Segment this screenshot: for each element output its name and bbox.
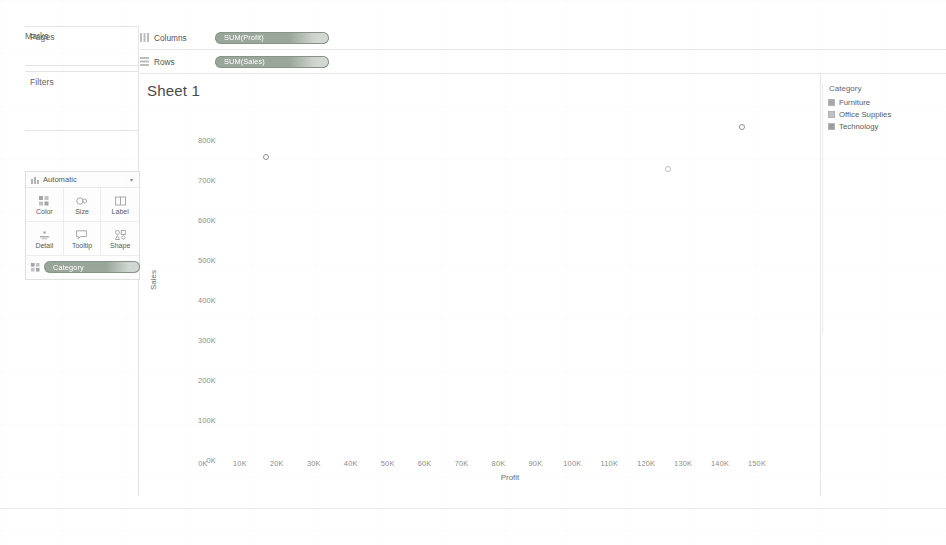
data-point[interactable] [263, 154, 269, 160]
tooltip-icon [76, 229, 87, 240]
columns-shelf-label: Columns [154, 33, 210, 43]
marks-button-size-label: Size [75, 208, 89, 215]
x-axis-tick: 30K [307, 459, 321, 468]
data-point[interactable] [665, 166, 671, 172]
marks-button-shape[interactable]: Shape [101, 222, 139, 255]
legend-divider [822, 84, 823, 334]
left-panel: Pages Filters Marks Automatic ▾ Color [25, 26, 138, 496]
x-axis-tick: 80K [492, 459, 506, 468]
x-axis-tick: 20K [270, 459, 284, 468]
marks-card: Automatic ▾ Color Size Label [25, 171, 140, 280]
label-icon [115, 195, 126, 206]
marks-button-detail-label: Detail [35, 242, 53, 249]
legend-title: Category [828, 84, 936, 93]
x-axis-tick: 150K [748, 459, 766, 468]
x-axis-tick: 90K [529, 459, 543, 468]
columns-shelf[interactable]: Columns SUM(Profit) [140, 26, 946, 50]
marks-button-color[interactable]: Color [26, 188, 64, 222]
marks-encoding-row: Category [26, 255, 139, 279]
scatter-plot[interactable]: Sales Profit 0K100K200K300K400K500K600K7… [140, 74, 820, 496]
x-axis-tick: 140K [711, 459, 729, 468]
bottom-divider [0, 508, 946, 509]
marks-type-icon [31, 176, 39, 184]
marks-button-shape-label: Shape [110, 242, 130, 249]
y-axis-tick: 600K [172, 216, 216, 225]
columns-icon [140, 33, 149, 42]
chevron-down-icon[interactable]: ▾ [130, 176, 135, 183]
color-legend: Category FurnitureOffice SuppliesTechnol… [828, 84, 936, 134]
marks-button-label-label: Label [112, 208, 129, 215]
pages-label: Pages [25, 27, 138, 42]
filters-label: Filters [25, 72, 138, 87]
size-icon [76, 195, 88, 206]
legend-item[interactable]: Technology [828, 122, 936, 131]
legend-item-label: Office Supplies [839, 110, 891, 119]
x-axis-tick: 60K [418, 459, 432, 468]
x-axis-tick: 110K [601, 459, 619, 468]
marks-pill-category[interactable]: Category [44, 261, 140, 273]
rows-shelf[interactable]: Rows SUM(Sales) [140, 50, 946, 74]
viz-pane: Sheet 1 Sales Profit 0K100K200K300K400K5… [140, 74, 821, 496]
x-axis-tick: 70K [455, 459, 469, 468]
x-axis-tick: 10K [233, 459, 247, 468]
rows-icon [140, 57, 149, 66]
y-axis-tick: 300K [172, 336, 216, 345]
x-axis-tick: 50K [381, 459, 395, 468]
x-axis-tick: 120K [637, 459, 655, 468]
x-axis-tick: 100K [563, 459, 581, 468]
legend-swatch-icon [828, 123, 835, 130]
y-axis-tick: 200K [172, 376, 216, 385]
y-axis-tick: 700K [172, 176, 216, 185]
pages-shelf[interactable]: Pages [25, 26, 138, 66]
filters-shelf[interactable]: Filters [25, 71, 138, 131]
legend-swatch-icon [828, 111, 835, 118]
shelves-area: Columns SUM(Profit) Rows SUM(Sales) [140, 26, 946, 74]
color-icon [31, 263, 40, 272]
legend-item-label: Technology [839, 122, 878, 131]
legend-item[interactable]: Office Supplies [828, 110, 936, 119]
marks-type-label: Automatic [43, 175, 126, 184]
marks-button-detail[interactable]: Detail [26, 222, 64, 255]
marks-button-tooltip-label: Tooltip [72, 242, 92, 249]
shape-icon [115, 229, 126, 240]
marks-buttons-grid: Color Size Label Detail [26, 188, 139, 255]
y-axis-tick: 500K [172, 256, 216, 265]
legend-item-label: Furniture [839, 98, 870, 107]
rows-shelf-label: Rows [154, 57, 210, 67]
marks-button-tooltip[interactable]: Tooltip [64, 222, 102, 255]
x-axis-title: Profit [140, 473, 820, 482]
color-icon [39, 195, 49, 206]
marks-button-color-label: Color [36, 208, 53, 215]
columns-pill-sum-profit[interactable]: SUM(Profit) [215, 32, 329, 44]
marks-type-dropdown[interactable]: Automatic ▾ [26, 172, 139, 188]
x-axis-tick: 130K [674, 459, 692, 468]
x-axis-tick: 0K [198, 459, 207, 468]
y-axis-tick: 400K [172, 296, 216, 305]
y-axis-title: Sales [149, 270, 158, 290]
legend-item[interactable]: Furniture [828, 98, 936, 107]
marks-button-label[interactable]: Label [101, 188, 139, 222]
rows-pill-sum-sales[interactable]: SUM(Sales) [215, 56, 329, 68]
y-axis-tick: 100K [172, 416, 216, 425]
x-axis-tick: 40K [344, 459, 358, 468]
y-axis-tick: 0K [172, 456, 216, 465]
legend-swatch-icon [828, 99, 835, 106]
detail-icon [39, 229, 50, 240]
y-axis-tick: 800K [172, 136, 216, 145]
data-point[interactable] [739, 124, 745, 130]
marks-button-size[interactable]: Size [64, 188, 102, 222]
